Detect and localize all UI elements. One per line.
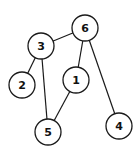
node-4: 4 <box>106 113 132 139</box>
node-label: 4 <box>115 120 123 133</box>
node-2: 2 <box>9 72 35 98</box>
node-label: 2 <box>18 79 26 92</box>
node-label: 5 <box>44 126 52 139</box>
node-label: 6 <box>81 22 89 35</box>
edge-6-4 <box>85 28 119 126</box>
node-6: 6 <box>72 15 98 41</box>
node-1: 1 <box>63 67 89 93</box>
node-label: 3 <box>37 40 45 53</box>
node-label: 1 <box>72 74 80 87</box>
node-3: 3 <box>28 33 54 59</box>
node-5: 5 <box>35 119 61 145</box>
graph-diagram: 632154 <box>0 0 139 152</box>
